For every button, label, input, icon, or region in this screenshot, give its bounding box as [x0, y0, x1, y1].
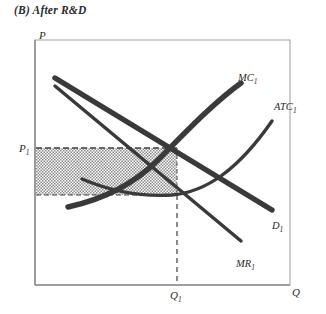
economics-diagram-figure: (B) After R&D: [0, 0, 326, 314]
demand-curve-label: D1: [271, 220, 283, 234]
price-tick-label: P1: [18, 142, 29, 157]
y-axis-label: P: [38, 29, 46, 41]
mr-curve-label: MR1: [235, 258, 255, 272]
quantity-tick-label: Q1: [170, 289, 182, 304]
diagram-canvas: P Q P1 Q1 MC1 ATC1 D1 MR1: [0, 0, 326, 314]
atc-curve-label: ATC1: [273, 101, 297, 115]
x-axis-label: Q: [292, 286, 300, 298]
